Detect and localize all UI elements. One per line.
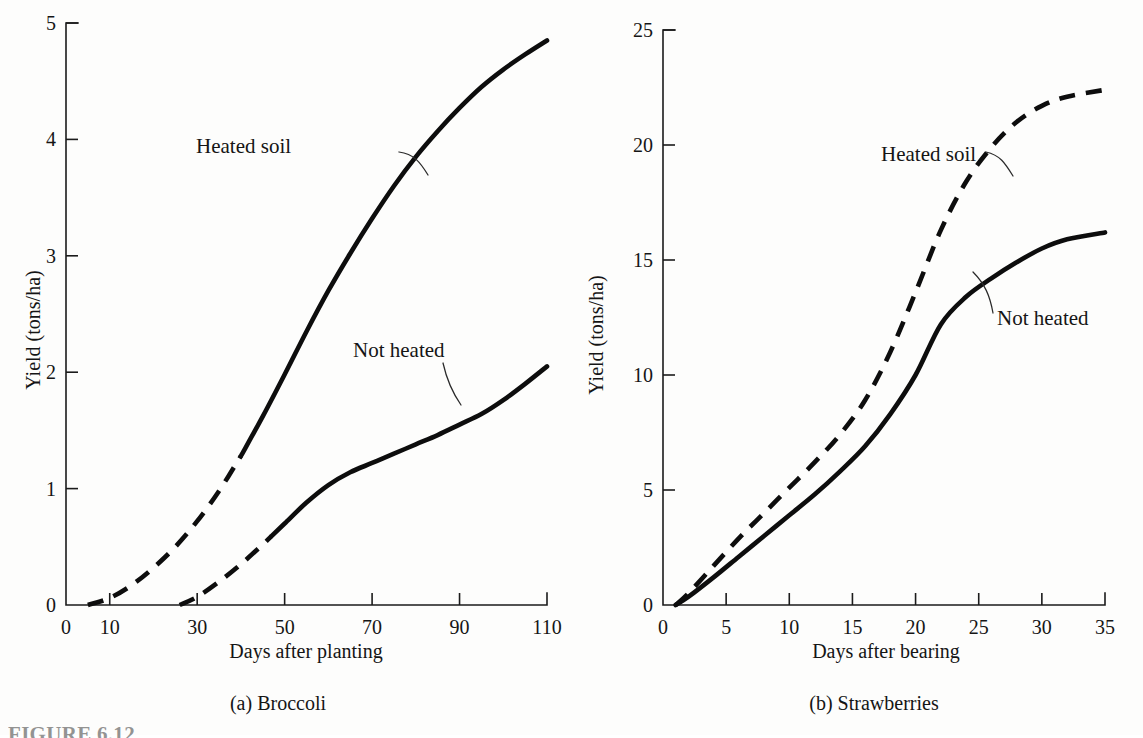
x-tick-label: 70 bbox=[362, 617, 382, 637]
broccoli-panel-caption: (a) Broccoli bbox=[230, 692, 326, 715]
chart-panel-strawberries: Yield (tons/ha) Days after bearing Heate… bbox=[563, 0, 1143, 735]
broccoli-not-heated-curve-solid bbox=[272, 366, 547, 536]
strawberries-plot-canvas bbox=[563, 0, 1143, 680]
broccoli-x-axis-title: Days after planting bbox=[229, 640, 382, 663]
broccoli-y-ticks bbox=[66, 23, 78, 489]
y-tick-label: 5 bbox=[615, 480, 653, 500]
broccoli-x-ticks bbox=[110, 593, 460, 605]
x-tick-label: 0 bbox=[658, 617, 668, 637]
y-tick-label: 0 bbox=[615, 595, 653, 615]
figure-number-footnote: FIGURE 6.12 bbox=[8, 722, 135, 738]
broccoli-not-heated-leader bbox=[443, 363, 461, 405]
y-tick-label: 20 bbox=[615, 135, 653, 155]
broccoli-heated-soil-label: Heated soil bbox=[196, 134, 291, 159]
x-tick-label: 15 bbox=[842, 617, 862, 637]
x-tick-label: 110 bbox=[532, 617, 561, 637]
strawberries-y-ticks bbox=[663, 30, 675, 490]
x-tick-label: 90 bbox=[450, 617, 470, 637]
y-tick-label: 1 bbox=[18, 479, 56, 499]
y-tick-label: 5 bbox=[18, 13, 56, 33]
x-tick-label: 10 bbox=[779, 617, 799, 637]
x-tick-label: 10 bbox=[100, 617, 120, 637]
chart-panel-broccoli: Yield (tons/ha) Days after planting Heat… bbox=[0, 0, 580, 735]
strawberries-x-axis-title: Days after bearing bbox=[812, 640, 960, 663]
strawberries-x-ticks bbox=[726, 593, 1042, 605]
x-tick-label: 35 bbox=[1095, 617, 1115, 637]
broccoli-not-heated-label: Not heated bbox=[353, 338, 445, 363]
broccoli-axes bbox=[66, 23, 547, 605]
y-tick-label: 3 bbox=[18, 246, 56, 266]
broccoli-heated-soil-curve-solid bbox=[241, 40, 547, 456]
strawberries-heated-soil-label: Heated soil bbox=[881, 142, 976, 167]
x-tick-label: 0 bbox=[61, 617, 71, 637]
x-tick-label: 30 bbox=[187, 617, 207, 637]
y-tick-label: 15 bbox=[615, 250, 653, 270]
broccoli-heated-soil-curve-dashed bbox=[88, 456, 241, 605]
y-tick-label: 0 bbox=[18, 595, 56, 615]
strawberries-y-axis-title: Yield (tons/ha) bbox=[585, 275, 608, 394]
strawberries-panel-caption: (b) Strawberries bbox=[809, 692, 938, 715]
strawberries-not-heated-curve bbox=[676, 232, 1105, 605]
broccoli-not-heated-curve-dashed bbox=[180, 536, 272, 605]
x-tick-label: 30 bbox=[1032, 617, 1052, 637]
broccoli-plot-canvas bbox=[0, 0, 580, 680]
y-tick-label: 10 bbox=[615, 365, 653, 385]
y-tick-label: 4 bbox=[18, 129, 56, 149]
x-tick-label: 25 bbox=[969, 617, 989, 637]
x-tick-label: 20 bbox=[906, 617, 926, 637]
y-tick-label: 2 bbox=[18, 362, 56, 382]
strawberries-not-heated-label: Not heated bbox=[997, 306, 1089, 331]
x-tick-label: 5 bbox=[721, 617, 731, 637]
strawberries-heated-soil-curve bbox=[676, 90, 1105, 605]
y-tick-label: 25 bbox=[615, 20, 653, 40]
x-tick-label: 50 bbox=[275, 617, 295, 637]
strawberries-heated-soil-leader bbox=[986, 152, 1013, 176]
